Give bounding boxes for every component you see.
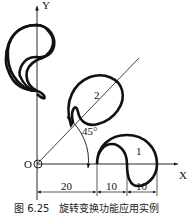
shape-2-label: 2 xyxy=(94,89,100,101)
dim-label-20: 20 xyxy=(61,180,73,192)
origin-label: O xyxy=(24,158,32,170)
y-axis-label: Y xyxy=(42,0,50,11)
dim-label-10a: 10 xyxy=(106,180,118,192)
x-axis-label: X xyxy=(179,169,187,181)
rotation-line xyxy=(37,58,139,164)
shape-1-label: 1 xyxy=(136,145,142,157)
angle-label: 45° xyxy=(82,125,97,137)
rotation-diagram: Y X O 45° 2 1 20 10 10 图 6.25 旋转变换功能应用实例 xyxy=(0,0,190,214)
figure-caption: 图 6.25 旋转变换功能应用实例 xyxy=(14,202,159,214)
dim-label-10b: 10 xyxy=(136,180,148,192)
